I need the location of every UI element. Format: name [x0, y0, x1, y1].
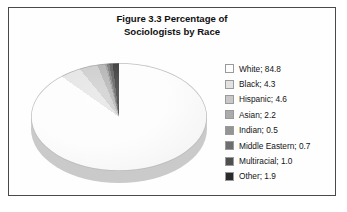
figure-container: Figure 3.3 Percentage of Sociologists by…	[0, 0, 347, 212]
chart-title-line-1: Figure 3.3 Percentage of	[9, 13, 335, 26]
legend-color-swatch	[225, 95, 234, 104]
legend-item[interactable]: Other; 1.9	[225, 169, 347, 184]
figure-frame: Figure 3.3 Percentage of Sociologists by…	[8, 7, 336, 196]
legend-item-label: Black; 4.3	[239, 79, 275, 89]
legend-item[interactable]: White; 84.8	[225, 61, 347, 76]
legend-item-label: Asian; 2.2	[239, 110, 276, 120]
chart-title-line-2: Sociologists by Race	[9, 26, 335, 39]
pie-slices	[31, 63, 207, 171]
chart-title: Figure 3.3 Percentage of Sociologists by…	[9, 13, 335, 38]
legend-color-swatch	[225, 141, 234, 150]
legend-item-label: Hispanic; 4.6	[239, 94, 287, 104]
legend-item-label: Multiracial; 1.0	[239, 156, 293, 166]
legend-item[interactable]: Asian; 2.2	[225, 107, 347, 122]
legend-color-swatch	[225, 110, 234, 119]
legend-item-label: White; 84.8	[239, 64, 281, 74]
legend-color-swatch	[225, 126, 234, 135]
legend-color-swatch	[225, 64, 234, 73]
legend-item-label: Middle Eastern; 0.7	[239, 141, 310, 151]
legend-color-swatch	[225, 172, 234, 181]
legend-item-label: Other; 1.9	[239, 171, 276, 181]
pie-chart	[23, 42, 215, 194]
legend-item-label: Indian; 0.5	[239, 125, 278, 135]
chart-legend: White; 84.8Black; 4.3Hispanic; 4.6Asian;…	[225, 61, 347, 184]
legend-item[interactable]: Hispanic; 4.6	[225, 92, 347, 107]
legend-item[interactable]: Multiracial; 1.0	[225, 153, 347, 168]
legend-color-swatch	[225, 80, 234, 89]
legend-item[interactable]: Indian; 0.5	[225, 123, 347, 138]
legend-item[interactable]: Middle Eastern; 0.7	[225, 138, 347, 153]
pie-top-surface	[31, 63, 207, 171]
legend-item[interactable]: Black; 4.3	[225, 76, 347, 91]
legend-color-swatch	[225, 157, 234, 166]
